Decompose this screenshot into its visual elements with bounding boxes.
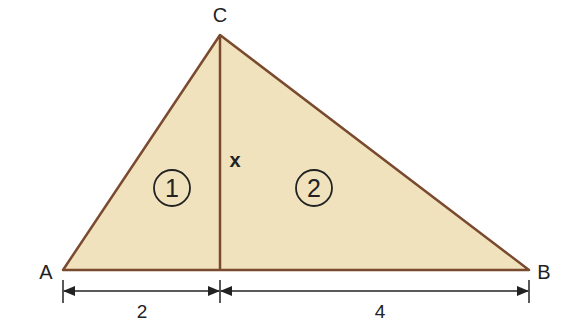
dimension-lines	[63, 280, 529, 303]
vertex-b-label: B	[537, 261, 550, 283]
vertex-c-label: C	[213, 4, 227, 26]
altitude-label: x	[229, 149, 240, 171]
triangle-diagram: 1 2 C A B x 2 4	[0, 0, 570, 333]
region-2-label: 2	[307, 174, 321, 202]
dimension-1-value: 2	[137, 301, 148, 322]
dimension-2-value: 4	[375, 301, 386, 322]
region-1-label: 1	[165, 174, 179, 202]
triangle-abc	[63, 35, 529, 270]
vertex-a-label: A	[39, 261, 53, 283]
